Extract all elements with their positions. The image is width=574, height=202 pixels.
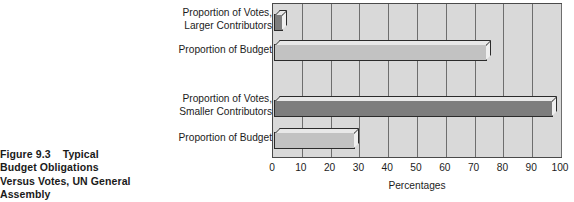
gridline-90: [532, 4, 533, 157]
bar-3: [274, 132, 355, 149]
x-tick-40: 40: [372, 162, 402, 173]
x-tick-70: 70: [459, 162, 489, 173]
bar-1: [274, 44, 487, 61]
x-tick-10: 10: [286, 162, 316, 173]
category-label-votes-larger-contributors: Proportion of Votes,Larger Contributors: [42, 7, 272, 32]
category-label-budget-larger: Proportion of Budget: [42, 44, 272, 57]
bar-side-face-2: [552, 96, 557, 116]
x-tick-60: 60: [430, 162, 460, 173]
category-label-line: Proportion of Budget: [42, 132, 272, 145]
x-tick-50: 50: [401, 162, 431, 173]
plot-area: [272, 3, 562, 158]
x-tick-30: 30: [343, 162, 373, 173]
bar-chart: Proportion of Votes,Larger Contributors …: [0, 0, 574, 202]
gridline-100: [561, 4, 562, 157]
bar-0: [274, 14, 283, 31]
category-label-line: Proportion of Budget: [42, 44, 272, 57]
gridline-60: [446, 4, 447, 157]
x-tick-20: 20: [315, 162, 345, 173]
bar-top-face-3: [275, 128, 359, 133]
category-label-line: Larger Contributors: [42, 20, 272, 33]
category-label-line: Smaller Contributors: [42, 106, 272, 119]
category-label-line: Proportion of Votes,: [42, 7, 272, 20]
gridline-70: [475, 4, 476, 157]
bar-top-face-1: [275, 40, 491, 45]
bar-side-face-1: [486, 40, 491, 60]
bar-2: [274, 100, 553, 117]
x-axis-title: Percentages: [272, 180, 562, 191]
x-tick-80: 80: [487, 162, 517, 173]
x-tick-100: 100: [545, 162, 574, 173]
category-label-budget-smaller: Proportion of Budget: [42, 132, 272, 145]
category-label-line: Proportion of Votes,: [42, 93, 272, 106]
x-tick-90: 90: [516, 162, 546, 173]
gridline-80: [503, 4, 504, 157]
category-label-votes-smaller-contributors: Proportion of Votes,Smaller Contributors: [42, 93, 272, 118]
gridline-40: [388, 4, 389, 157]
x-tick-0: 0: [257, 162, 287, 173]
gridline-30: [359, 4, 360, 157]
gridline-50: [417, 4, 418, 157]
bar-top-face-2: [275, 96, 557, 101]
